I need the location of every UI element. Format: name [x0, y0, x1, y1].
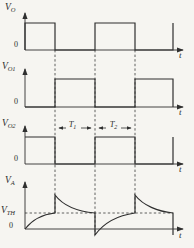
label-vth-sub: TH — [7, 209, 15, 216]
time-label-vo2: t — [179, 165, 182, 174]
label-vo-sub: O — [11, 6, 15, 13]
label-vth: VTH — [1, 206, 15, 217]
label-t2-sub: 2 — [114, 124, 117, 130]
label-vo: VO — [5, 3, 15, 14]
origin-zero-vo2: 0 — [14, 155, 18, 163]
origin-zero-vo: 0 — [14, 41, 18, 49]
time-label-vo: t — [179, 51, 182, 60]
vo2-waveform — [25, 137, 173, 164]
time-label-vo1: t — [179, 108, 182, 117]
waveform-canvas — [0, 0, 194, 248]
waveform-figure: VO 0 t VO1 0 t VO2 T1 T2 0 t VA VTH 0 t — [0, 0, 194, 248]
label-t2: T2 — [107, 120, 120, 130]
origin-zero-vo1: 0 — [14, 98, 18, 106]
label-va: VA — [5, 176, 14, 187]
vo1-waveform — [25, 79, 173, 107]
label-vo1-sub: O1 — [8, 65, 15, 72]
label-t1: T1 — [66, 120, 79, 130]
label-va-sub: A — [11, 179, 15, 186]
vo-waveform — [25, 23, 173, 50]
origin-zero-va: 0 — [9, 222, 13, 230]
time-label-va: t — [179, 231, 182, 240]
label-vo2: VO2 — [2, 119, 15, 130]
label-vo1: VO1 — [2, 62, 15, 73]
label-vo2-sub: O2 — [8, 122, 15, 129]
label-t1-sub: 1 — [73, 124, 76, 130]
